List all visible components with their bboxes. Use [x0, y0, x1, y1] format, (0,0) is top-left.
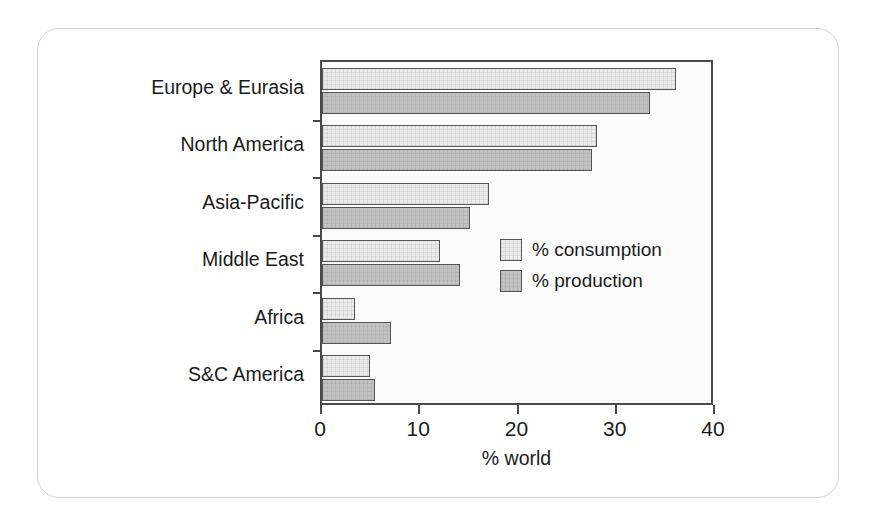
x-axis-tick: [615, 405, 617, 414]
category-label: S&C America: [0, 363, 304, 386]
legend-item-consumption: % consumption: [500, 239, 662, 261]
legend-item-production: % production: [500, 270, 662, 292]
x-axis-tick: [517, 405, 519, 414]
x-axis-tick: [320, 405, 322, 414]
bar-consumption: [322, 355, 370, 377]
legend-label-production: % production: [532, 270, 643, 292]
x-axis-tick-label: 20: [487, 417, 547, 441]
plot-area: [320, 60, 713, 405]
bar-production: [322, 92, 650, 114]
bar-consumption: [322, 125, 597, 147]
category-label: North America: [0, 133, 304, 156]
category-label: Middle East: [0, 248, 304, 271]
x-axis-tick-label: 40: [683, 417, 743, 441]
category-axis-tick: [313, 292, 322, 294]
x-axis-tick-label: 30: [585, 417, 645, 441]
x-axis-tick-label: 0: [290, 417, 350, 441]
bar-production: [322, 264, 460, 286]
chart-legend: % consumption % production: [500, 239, 662, 301]
bar-production: [322, 379, 375, 401]
bar-consumption: [322, 240, 440, 262]
bar-production: [322, 207, 470, 229]
x-axis-tick: [713, 405, 715, 414]
category-axis-tick: [313, 177, 322, 179]
category-axis-tick: [313, 350, 322, 352]
plot-bars-container: [322, 62, 711, 403]
legend-swatch-consumption-icon: [500, 239, 522, 261]
x-axis-tick-label: 10: [388, 417, 448, 441]
bar-consumption: [322, 183, 489, 205]
bar-production: [322, 149, 592, 171]
legend-swatch-production-icon: [500, 270, 522, 292]
bar-consumption: [322, 68, 676, 90]
category-label: Asia-Pacific: [0, 191, 304, 214]
screenshot-root: Europe & EurasiaNorth AmericaAsia-Pacifi…: [0, 0, 876, 527]
bar-chart-figure: Europe & EurasiaNorth AmericaAsia-Pacifi…: [0, 0, 876, 527]
legend-label-consumption: % consumption: [532, 239, 662, 261]
bar-production: [322, 322, 391, 344]
x-axis-title: % world: [320, 447, 713, 470]
category-label: Africa: [0, 306, 304, 329]
x-axis-tick: [418, 405, 420, 414]
category-axis-tick: [313, 235, 322, 237]
category-label: Europe & Eurasia: [0, 76, 304, 99]
bar-consumption: [322, 298, 355, 320]
category-axis-tick: [313, 120, 322, 122]
